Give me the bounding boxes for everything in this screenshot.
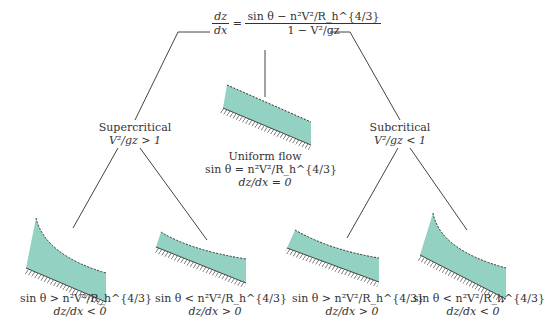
subcritical-title: Subcritical bbox=[345, 121, 455, 134]
supercritical-condition: V²/gz > 1 bbox=[80, 134, 190, 147]
uniform-flow-condition: sin θ = n²V²/R_h^{4/3} bbox=[205, 163, 325, 176]
connector-top-left bbox=[135, 32, 210, 120]
connector-super-left bbox=[73, 148, 118, 228]
supercritical-label: Supercritical V²/gz > 1 bbox=[80, 121, 190, 147]
channel-super-increasing bbox=[153, 232, 246, 288]
uniform-flow-title: Uniform flow bbox=[205, 150, 325, 163]
connector-top-right bbox=[330, 32, 400, 120]
case-sub-2-label: sin θ < n²V²/R_h^{4/3} dz/dx < 0 bbox=[413, 292, 533, 318]
connector-super-right bbox=[140, 148, 207, 240]
governing-equation: dz dx = sin θ − n²V²/R_h^{4/3} 1 − V²/gz bbox=[212, 10, 332, 37]
subcritical-condition: V²/gz < 1 bbox=[345, 134, 455, 147]
uniform-flow-label: Uniform flow sin θ = n²V²/R_h^{4/3} dz/d… bbox=[205, 150, 325, 189]
subcritical-label: Subcritical V²/gz < 1 bbox=[345, 121, 455, 147]
connector-sub-left bbox=[347, 148, 398, 238]
connector-sub-right bbox=[410, 148, 467, 230]
case-super-2-label: sin θ < n²V²/R_h^{4/3} dz/dx > 0 bbox=[155, 292, 275, 318]
channel-sub-increasing bbox=[284, 230, 379, 287]
case-super-1-label: sin θ > n²V²/R_h^{4/3} dz/dx < 0 bbox=[20, 292, 140, 318]
equation-rhs: sin θ − n²V²/R_h^{4/3} 1 − V²/gz bbox=[245, 10, 381, 37]
equation-lhs: dz dx bbox=[212, 10, 229, 37]
supercritical-title: Supercritical bbox=[80, 121, 190, 134]
channel-sub-decreasing bbox=[417, 213, 506, 304]
case-sub-1-label: sin θ > n²V²/R_h^{4/3} dz/dx > 0 bbox=[292, 292, 412, 318]
uniform-flow-slope: dz/dx = 0 bbox=[205, 176, 325, 189]
